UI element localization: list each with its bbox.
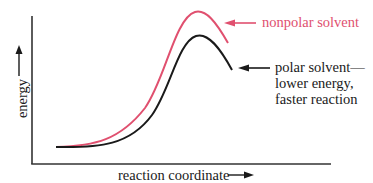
y-axis-label: energy	[15, 74, 30, 124]
polar-curve	[56, 35, 232, 147]
polar-label-line3: faster reaction	[275, 92, 358, 107]
x-axis-arrow-icon	[228, 172, 254, 179]
nonpolar-label: nonpolar solvent	[262, 15, 359, 30]
polar-label-line1: polar solvent—	[275, 60, 365, 75]
y-axis-arrow-icon	[16, 45, 23, 76]
polar-label-line2: lower energy,	[275, 76, 354, 91]
nonpolar-arrow-icon	[224, 20, 256, 27]
x-axis-label: reaction coordinate	[118, 168, 230, 183]
polar-arrow-icon	[238, 65, 270, 72]
